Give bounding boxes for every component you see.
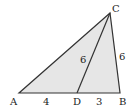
point-label-a: A: [9, 96, 18, 107]
segment-label-cd: 6: [80, 54, 86, 65]
point-label-d: D: [73, 96, 81, 107]
triangle-diagram: C A D B 4 3 6 6: [0, 0, 133, 110]
point-label-c: C: [112, 3, 120, 14]
point-label-b: B: [119, 96, 126, 107]
segment-label-cb: 6: [119, 51, 125, 62]
segment-label-db: 3: [96, 96, 102, 107]
segment-label-ad: 4: [43, 96, 49, 107]
